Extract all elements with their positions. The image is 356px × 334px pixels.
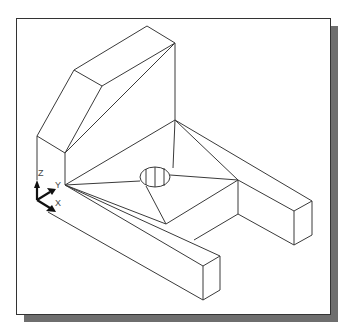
bracket-model	[37, 26, 312, 300]
drawing-canvas[interactable]: Z Y X	[0, 0, 356, 334]
y-axis-label: Y	[55, 180, 61, 190]
z-axis-arrow-icon	[34, 180, 40, 188]
ucs-icon: Z Y X	[34, 168, 61, 212]
x-axis-label: X	[55, 198, 61, 208]
z-axis-label: Z	[38, 168, 44, 178]
